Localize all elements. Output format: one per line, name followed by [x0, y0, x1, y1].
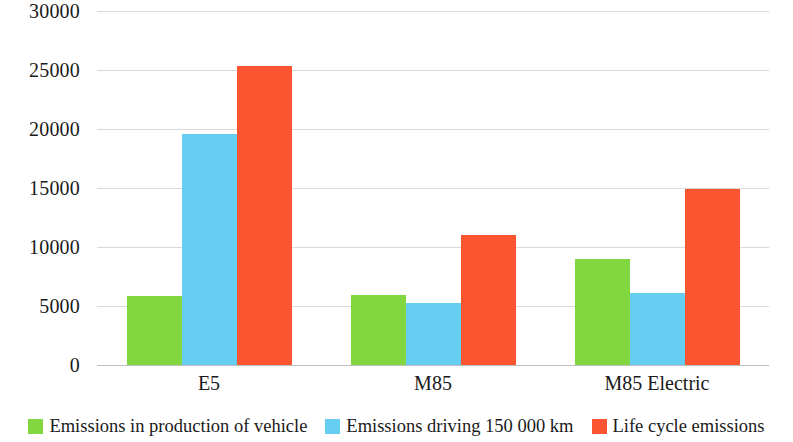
x-tick-label: M85 Electric	[605, 372, 710, 395]
bar-groups	[97, 11, 769, 365]
legend-label: Life cycle emissions	[613, 417, 765, 436]
emissions-bar-chart: 050001000015000200002500030000 E5M85M85 …	[0, 0, 793, 442]
gridline-0	[97, 365, 769, 366]
bar-group	[127, 11, 292, 365]
legend-swatch-icon	[325, 419, 340, 434]
bar	[182, 134, 237, 365]
legend-item: Life cycle emissions	[592, 417, 765, 436]
bar	[575, 259, 630, 365]
y-tick-label: 25000	[29, 59, 80, 82]
y-tick-label: 15000	[29, 177, 80, 200]
chart-legend: Emissions in production of vehicleEmissi…	[0, 412, 793, 440]
legend-label: Emissions in production of vehicle	[49, 417, 307, 436]
legend-item: Emissions driving 150 000 km	[325, 417, 573, 436]
bar	[237, 66, 292, 365]
bar-group	[575, 11, 740, 365]
legend-item: Emissions in production of vehicle	[28, 417, 307, 436]
bar	[630, 293, 685, 365]
bar	[685, 189, 740, 365]
y-tick-label: 20000	[29, 118, 80, 141]
x-tick-label: M85	[414, 372, 452, 395]
y-tick-label: 5000	[39, 295, 80, 318]
bar	[351, 295, 406, 365]
bar-group	[351, 11, 516, 365]
y-tick-label: 30000	[29, 0, 80, 23]
x-axis-category-labels: E5M85M85 Electric	[97, 372, 769, 402]
legend-swatch-icon	[28, 419, 43, 434]
y-axis-tick-labels: 050001000015000200002500030000	[0, 0, 92, 442]
x-tick-label: E5	[198, 372, 220, 395]
bar	[406, 303, 461, 365]
y-tick-label: 10000	[29, 236, 80, 259]
plot-area	[97, 11, 769, 365]
bar	[127, 296, 182, 365]
legend-swatch-icon	[592, 419, 607, 434]
legend-label: Emissions driving 150 000 km	[346, 417, 573, 436]
y-tick-label: 0	[70, 354, 80, 377]
bar	[461, 235, 516, 365]
